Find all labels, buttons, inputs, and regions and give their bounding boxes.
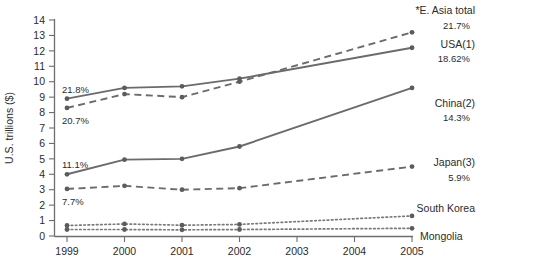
y-tick-label: 2 bbox=[39, 199, 45, 211]
series-label-mongolia: Mongolia bbox=[420, 230, 463, 242]
data-point-marker bbox=[410, 214, 415, 219]
x-tick-label: 2004 bbox=[343, 245, 367, 257]
data-point-marker bbox=[410, 226, 415, 231]
series-label-south-korea: South Korea bbox=[417, 202, 476, 214]
y-tick-label: 0 bbox=[39, 230, 45, 242]
y-tick-label: 4 bbox=[39, 168, 45, 180]
y-tick-label: 12 bbox=[33, 45, 45, 57]
data-point-marker bbox=[410, 45, 415, 50]
x-tick-label: 2005 bbox=[400, 245, 424, 257]
data-point-marker bbox=[237, 227, 242, 232]
x-tick-label: 2002 bbox=[228, 245, 252, 257]
data-point-marker bbox=[180, 187, 185, 192]
y-tick-label: 5 bbox=[39, 153, 45, 165]
end-percent-label: 14.3% bbox=[443, 112, 470, 123]
series-label-japan-3-: Japan(3) bbox=[434, 156, 475, 168]
y-tick-label: 9 bbox=[39, 91, 45, 103]
data-point-marker bbox=[122, 92, 127, 97]
end-percent-label: 18.62% bbox=[438, 53, 471, 64]
data-point-marker bbox=[122, 85, 127, 90]
data-point-marker bbox=[410, 30, 415, 35]
x-tick-label: 2000 bbox=[113, 245, 137, 257]
data-point-marker bbox=[180, 95, 185, 100]
y-tick-label: 3 bbox=[39, 183, 45, 195]
y-tick-label: 13 bbox=[33, 29, 45, 41]
y-tick-label: 6 bbox=[39, 137, 45, 149]
data-point-marker bbox=[65, 187, 70, 192]
data-point-marker bbox=[122, 222, 127, 227]
data-point-marker bbox=[65, 227, 70, 232]
line-chart: 01234567891011121314 1999200020012002200… bbox=[0, 0, 541, 274]
x-tick-label: 1999 bbox=[55, 245, 79, 257]
data-point-marker bbox=[410, 164, 415, 169]
data-point-marker bbox=[180, 227, 185, 232]
start-percent-label: 11.1% bbox=[62, 159, 89, 170]
series-label-usa-1-: USA(1) bbox=[441, 38, 475, 50]
y-tick-label: 8 bbox=[39, 106, 45, 118]
start-percent-label: 21.8% bbox=[62, 84, 89, 95]
data-point-marker bbox=[237, 76, 242, 81]
data-point-marker bbox=[180, 84, 185, 89]
y-tick-label: 7 bbox=[39, 122, 45, 134]
y-tick-label: 11 bbox=[34, 60, 45, 72]
data-point-marker bbox=[122, 183, 127, 188]
data-point-marker bbox=[65, 96, 70, 101]
end-percent-label: 21.7% bbox=[443, 20, 470, 31]
data-point-marker bbox=[65, 106, 70, 111]
y-tick-label: 1 bbox=[39, 214, 45, 226]
data-point-marker bbox=[122, 227, 127, 232]
series-label--e-asia-total: *E. Asia total bbox=[415, 4, 475, 16]
data-point-marker bbox=[410, 85, 415, 90]
start-percent-label: 20.7% bbox=[62, 115, 89, 126]
data-point-marker bbox=[180, 223, 185, 228]
data-point-marker bbox=[122, 157, 127, 162]
y-tick-label: 14 bbox=[33, 14, 45, 26]
data-point-marker bbox=[237, 144, 242, 149]
data-point-marker bbox=[180, 156, 185, 161]
data-point-marker bbox=[65, 172, 70, 177]
series-label-china-2-: China(2) bbox=[435, 97, 475, 109]
y-tick-label: 10 bbox=[33, 75, 45, 87]
x-tick-label: 2001 bbox=[170, 245, 194, 257]
data-point-marker bbox=[237, 222, 242, 227]
start-percent-label: 7.7% bbox=[62, 196, 84, 207]
end-percent-label: 5.9% bbox=[448, 172, 470, 183]
x-tick-label: 2003 bbox=[285, 245, 309, 257]
y-axis-title: U.S. trillions ($) bbox=[3, 92, 15, 164]
data-point-marker bbox=[237, 186, 242, 191]
chart-canvas: 01234567891011121314 1999200020012002200… bbox=[0, 0, 541, 274]
